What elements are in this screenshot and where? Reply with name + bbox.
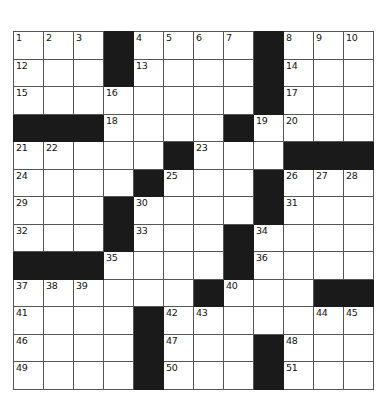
grid-cell[interactable] (224, 87, 254, 115)
grid-cell[interactable]: 7 (224, 32, 254, 60)
grid-cell[interactable] (194, 114, 224, 142)
grid-cell[interactable] (164, 197, 194, 225)
grid-cell[interactable] (224, 197, 254, 225)
grid-cell[interactable] (74, 59, 104, 87)
grid-cell[interactable]: 44 (314, 307, 344, 335)
grid-cell[interactable] (74, 197, 104, 225)
grid-cell[interactable] (314, 87, 344, 115)
grid-cell[interactable] (224, 169, 254, 197)
grid-cell[interactable] (104, 362, 134, 390)
grid-cell[interactable]: 27 (314, 169, 344, 197)
grid-cell[interactable] (44, 197, 74, 225)
grid-cell[interactable]: 46 (14, 334, 44, 362)
grid-cell[interactable] (134, 279, 164, 307)
grid-cell[interactable]: 50 (164, 362, 194, 390)
grid-cell[interactable]: 33 (134, 224, 164, 252)
grid-cell[interactable] (134, 114, 164, 142)
grid-cell[interactable] (344, 334, 374, 362)
grid-cell[interactable]: 24 (14, 169, 44, 197)
grid-cell[interactable]: 15 (14, 87, 44, 115)
grid-cell[interactable]: 26 (284, 169, 314, 197)
grid-cell[interactable] (344, 252, 374, 280)
grid-cell[interactable]: 6 (194, 32, 224, 60)
grid-cell[interactable]: 3 (74, 32, 104, 60)
grid-cell[interactable] (194, 362, 224, 390)
grid-cell[interactable] (134, 252, 164, 280)
grid-cell[interactable]: 2 (44, 32, 74, 60)
grid-cell[interactable] (194, 197, 224, 225)
grid-cell[interactable] (254, 279, 284, 307)
grid-cell[interactable] (74, 307, 104, 335)
grid-cell[interactable] (44, 362, 74, 390)
grid-cell[interactable]: 37 (14, 279, 44, 307)
grid-cell[interactable]: 20 (284, 114, 314, 142)
grid-cell[interactable]: 40 (224, 279, 254, 307)
grid-cell[interactable]: 22 (44, 142, 74, 170)
grid-cell[interactable]: 51 (284, 362, 314, 390)
grid-cell[interactable] (194, 59, 224, 87)
grid-cell[interactable] (164, 279, 194, 307)
grid-cell[interactable] (344, 224, 374, 252)
grid-cell[interactable] (344, 114, 374, 142)
grid-cell[interactable] (284, 279, 314, 307)
grid-cell[interactable]: 5 (164, 32, 194, 60)
grid-cell[interactable] (254, 142, 284, 170)
grid-cell[interactable] (314, 224, 344, 252)
grid-cell[interactable] (74, 87, 104, 115)
grid-cell[interactable]: 29 (14, 197, 44, 225)
grid-cell[interactable] (224, 334, 254, 362)
grid-cell[interactable] (104, 334, 134, 362)
grid-cell[interactable] (134, 87, 164, 115)
grid-cell[interactable] (44, 59, 74, 87)
grid-cell[interactable] (74, 362, 104, 390)
grid-cell[interactable] (194, 169, 224, 197)
grid-cell[interactable]: 49 (14, 362, 44, 390)
grid-cell[interactable] (44, 224, 74, 252)
grid-cell[interactable] (314, 59, 344, 87)
grid-cell[interactable] (104, 279, 134, 307)
grid-cell[interactable]: 30 (134, 197, 164, 225)
grid-cell[interactable] (74, 169, 104, 197)
grid-cell[interactable]: 1 (14, 32, 44, 60)
grid-cell[interactable]: 16 (104, 87, 134, 115)
grid-cell[interactable] (44, 87, 74, 115)
grid-cell[interactable] (74, 142, 104, 170)
grid-cell[interactable] (224, 362, 254, 390)
grid-cell[interactable]: 18 (104, 114, 134, 142)
grid-cell[interactable]: 28 (344, 169, 374, 197)
grid-cell[interactable] (344, 362, 374, 390)
grid-cell[interactable]: 39 (74, 279, 104, 307)
grid-cell[interactable] (104, 169, 134, 197)
grid-cell[interactable]: 32 (14, 224, 44, 252)
grid-cell[interactable] (224, 142, 254, 170)
grid-cell[interactable] (194, 224, 224, 252)
grid-cell[interactable]: 10 (344, 32, 374, 60)
grid-cell[interactable] (164, 224, 194, 252)
grid-cell[interactable]: 23 (194, 142, 224, 170)
grid-cell[interactable] (314, 114, 344, 142)
grid-cell[interactable] (344, 197, 374, 225)
grid-cell[interactable]: 21 (14, 142, 44, 170)
grid-cell[interactable]: 45 (344, 307, 374, 335)
grid-cell[interactable] (314, 334, 344, 362)
grid-cell[interactable]: 48 (284, 334, 314, 362)
grid-cell[interactable]: 13 (134, 59, 164, 87)
grid-cell[interactable] (224, 59, 254, 87)
grid-cell[interactable] (314, 362, 344, 390)
grid-cell[interactable]: 4 (134, 32, 164, 60)
grid-cell[interactable]: 19 (254, 114, 284, 142)
grid-cell[interactable]: 25 (164, 169, 194, 197)
grid-cell[interactable]: 8 (284, 32, 314, 60)
grid-cell[interactable]: 35 (104, 252, 134, 280)
grid-cell[interactable] (284, 224, 314, 252)
grid-cell[interactable]: 47 (164, 334, 194, 362)
grid-cell[interactable] (164, 87, 194, 115)
crossword-grid[interactable]: 1234567891012131415161718192021222324252… (13, 31, 374, 390)
grid-cell[interactable] (74, 334, 104, 362)
grid-cell[interactable] (344, 87, 374, 115)
grid-cell[interactable] (344, 59, 374, 87)
grid-cell[interactable] (194, 252, 224, 280)
grid-cell[interactable] (164, 59, 194, 87)
grid-cell[interactable] (104, 142, 134, 170)
grid-cell[interactable]: 43 (194, 307, 224, 335)
